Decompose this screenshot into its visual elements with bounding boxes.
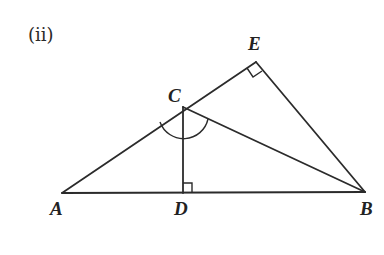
vertex-label-b: B: [359, 198, 373, 219]
vertex-label-a: A: [49, 198, 63, 219]
segment-cb: [183, 107, 365, 192]
vertex-label-e: E: [247, 33, 261, 54]
segment-eb: [256, 62, 365, 192]
vertex-label-d: D: [173, 198, 188, 219]
right-angle-mark-e: [247, 68, 262, 77]
geometry-diagram: (ii) A D B C E: [0, 0, 384, 255]
right-angle-mark-d: [183, 183, 192, 193]
segment-ab: [62, 192, 365, 193]
figure-caption: (ii): [28, 24, 54, 45]
vertex-label-c: C: [168, 85, 181, 106]
